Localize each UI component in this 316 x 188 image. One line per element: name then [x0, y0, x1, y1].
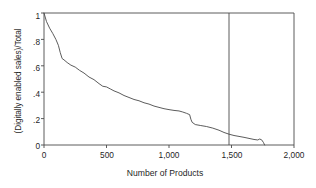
plot-frame	[44, 13, 294, 145]
chart-figure: (Digitally enabled sales)/Total 1 .8 .6 …	[0, 0, 316, 188]
data-series-line	[44, 13, 265, 145]
plot-area	[0, 0, 316, 188]
